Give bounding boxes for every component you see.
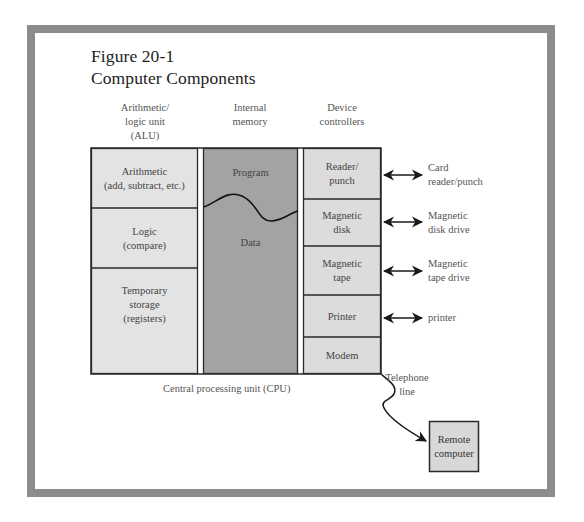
program-text: Program: [232, 166, 268, 180]
remote-computer-label: Remotecomputer: [430, 422, 478, 471]
label-line: line: [382, 385, 432, 399]
peripheral-disk-drive: Magneticdisk drive: [428, 209, 470, 237]
cell-line: (add, subtract, etc.): [104, 179, 185, 193]
device-printer-cell: Printer: [304, 296, 380, 337]
label-line: Magnetic: [428, 209, 470, 223]
telephone-label: Telephoneline: [382, 371, 432, 399]
label-line: reader/punch: [428, 175, 483, 189]
label-line: disk drive: [428, 223, 470, 237]
cell-line: computer: [434, 447, 474, 461]
cell-line: punch: [326, 174, 359, 188]
device-modem-cell: Modem: [304, 338, 380, 374]
label-line: Magnetic: [428, 257, 470, 271]
cell-line: Arithmetic: [104, 165, 185, 179]
alu-temporary-storage-cell: Temporarystorage(registers): [92, 280, 197, 330]
cell-line: Remote: [434, 433, 474, 447]
cell-line: (compare): [123, 239, 166, 253]
peripheral-tape-drive: Magnetictape drive: [428, 257, 470, 285]
cell-line: storage: [122, 298, 168, 312]
cell-line: Printer: [328, 310, 357, 324]
cell-line: Modem: [326, 349, 359, 363]
peripheral-card-reader: Cardreader/punch: [428, 161, 483, 189]
device-magnetic-disk-cell: Magneticdisk: [304, 200, 380, 246]
cpu-label: Central processing unit (CPU): [163, 382, 290, 396]
label-line: tape drive: [428, 271, 470, 285]
label-line: Card: [428, 161, 483, 175]
data-text: Data: [241, 236, 261, 250]
cell-line: disk: [322, 223, 362, 237]
diagram-graphics: [0, 0, 584, 522]
label-line: printer: [428, 311, 456, 325]
cell-line: Logic: [123, 225, 166, 239]
cell-line: tape: [322, 271, 362, 285]
alu-logic-cell: Logic(compare): [92, 209, 197, 268]
alu-arithmetic-cell: Arithmetic(add, subtract, etc.): [92, 149, 197, 208]
peripheral-printer: printer: [428, 311, 456, 325]
cell-line: Magnetic: [322, 257, 362, 271]
memory-data-label: Data: [204, 236, 297, 250]
device-magnetic-tape-cell: Magnetictape: [304, 247, 380, 295]
memory-program-label: Program: [204, 166, 297, 180]
cell-line: (registers): [122, 312, 168, 326]
cell-line: Temporary: [122, 284, 168, 298]
cell-line: Magnetic: [322, 209, 362, 223]
label-line: Telephone: [382, 371, 432, 385]
memory-column: [204, 149, 298, 374]
cell-line: Reader/: [326, 160, 359, 174]
device-reader-punch-cell: Reader/punch: [304, 149, 380, 199]
